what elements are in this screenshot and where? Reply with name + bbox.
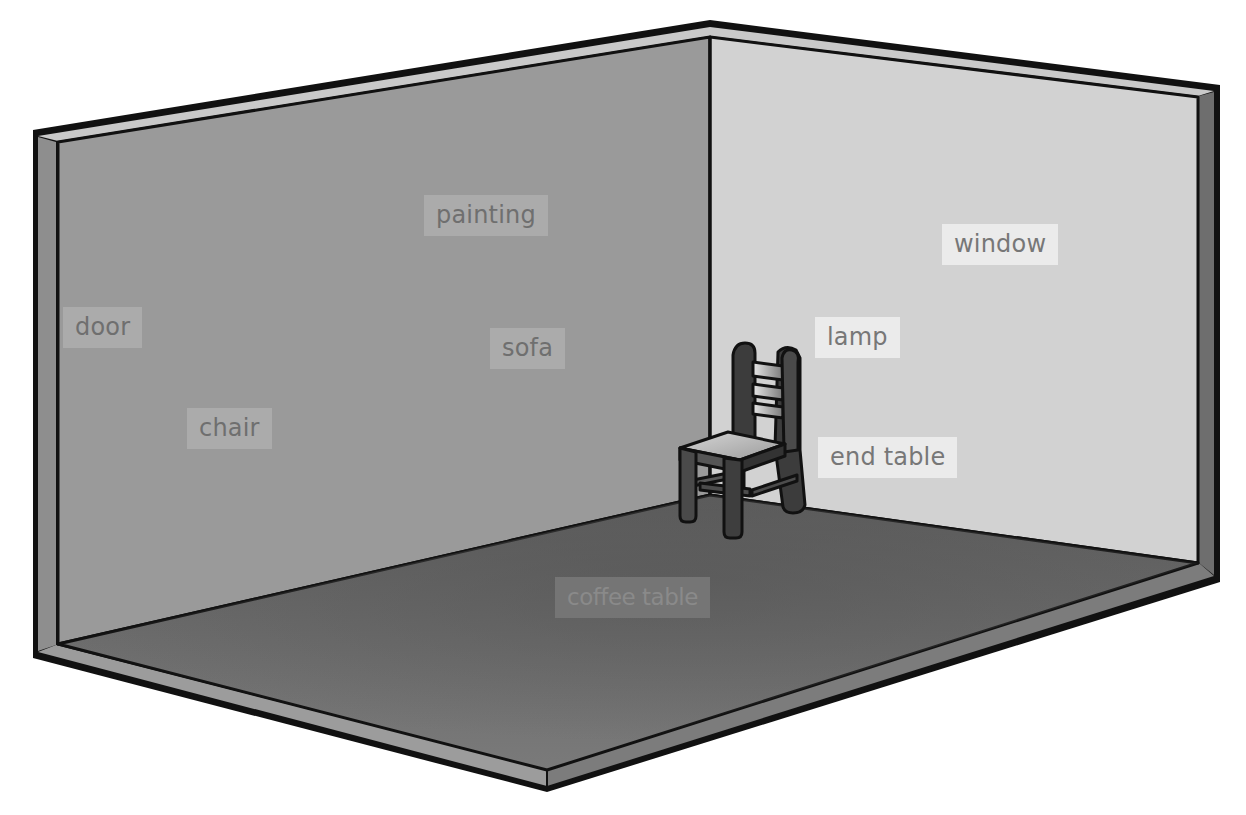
label-painting[interactable]: painting [424, 195, 548, 236]
chair-back-slat-lower [753, 403, 783, 418]
label-door[interactable]: door [63, 307, 142, 348]
label-window[interactable]: window [942, 224, 1058, 265]
label-chair[interactable]: chair [187, 408, 272, 449]
chair-front-leg-right [724, 458, 742, 538]
right-wall-side-edge [1199, 92, 1214, 575]
label-end-table[interactable]: end table [818, 437, 957, 478]
label-lamp[interactable]: lamp [815, 317, 900, 358]
chair-back-slat-top [753, 362, 783, 380]
left-wall-side-edge [38, 137, 56, 651]
label-coffee-table[interactable]: coffee table [555, 577, 710, 618]
chair-rear-post-right [782, 350, 798, 452]
chair-front-leg-left [680, 448, 696, 522]
label-sofa[interactable]: sofa [490, 328, 565, 369]
chair-back-slat-middle [753, 384, 783, 400]
